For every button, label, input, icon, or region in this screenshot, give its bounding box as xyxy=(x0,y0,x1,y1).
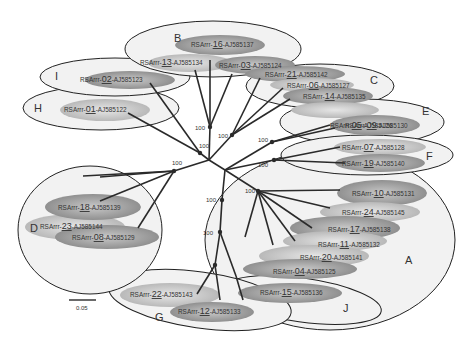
svg-text:A: A xyxy=(405,254,413,266)
phylogenetic-tree-figure: 100 100 100 100 100 100 100 100 100 A B … xyxy=(0,0,464,350)
svg-text:RSArrr-13-AJ585134: RSArrr-13-AJ585134 xyxy=(140,57,203,67)
svg-text:RSArrr-10-AJ585131: RSArrr-10-AJ585131 xyxy=(352,188,415,198)
svg-text:G: G xyxy=(155,311,164,323)
svg-text:RSArrr-04-AJ585125: RSArrr-04-AJ585125 xyxy=(273,266,336,276)
svg-text:RSArrr-03-AJ585124: RSArrr-03-AJ585124 xyxy=(219,60,282,70)
svg-text:RSArrr-17-AJ585138: RSArrr-17-AJ585138 xyxy=(328,224,391,234)
svg-text:H: H xyxy=(34,102,42,114)
svg-text:100: 100 xyxy=(206,197,217,203)
svg-text:RSArrr-09-AJ585130: RSArrr-09-AJ585130 xyxy=(345,120,408,130)
svg-text:F: F xyxy=(426,150,433,162)
svg-text:B: B xyxy=(174,32,181,44)
svg-text:100: 100 xyxy=(172,160,183,166)
svg-text:RSArrr-01-AJ585122: RSArrr-01-AJ585122 xyxy=(64,104,127,114)
svg-text:0.05: 0.05 xyxy=(76,305,88,311)
svg-text:100: 100 xyxy=(203,230,214,236)
svg-text:RSArrr-02-AJ585123: RSArrr-02-AJ585123 xyxy=(80,74,143,84)
svg-text:J: J xyxy=(343,302,349,314)
svg-text:RSArrr-08-AJ585129: RSArrr-08-AJ585129 xyxy=(72,232,135,242)
svg-text:RSArrr-24-AJ585145: RSArrr-24-AJ585145 xyxy=(342,207,405,217)
svg-text:RSArrr-07-AJ585128: RSArrr-07-AJ585128 xyxy=(342,142,405,152)
svg-text:100: 100 xyxy=(258,162,269,168)
svg-text:RSArrr-22-AJ585143: RSArrr-22-AJ585143 xyxy=(130,289,193,299)
svg-text:I: I xyxy=(55,70,58,82)
svg-text:C: C xyxy=(370,74,378,86)
svg-text:RSArrr-16-AJ585137: RSArrr-16-AJ585137 xyxy=(191,39,254,49)
svg-text:RSArrr-06-AJ585127: RSArrr-06-AJ585127 xyxy=(287,80,350,90)
svg-text:D: D xyxy=(30,222,38,234)
svg-text:100: 100 xyxy=(218,133,229,139)
svg-text:100: 100 xyxy=(258,137,269,143)
svg-text:RSArrr-18-AJ585139: RSArrr-18-AJ585139 xyxy=(58,202,121,212)
svg-text:100: 100 xyxy=(245,188,256,194)
svg-text:RSArrr-20-AJ585141: RSArrr-20-AJ585141 xyxy=(300,252,363,262)
svg-text:RSArrr-19-AJ585140: RSArrr-19-AJ585140 xyxy=(342,158,405,168)
svg-text:RSArrr-11-AJ585132: RSArrr-11-AJ585132 xyxy=(318,239,380,249)
svg-text:RSArrr-12-AJ585133: RSArrr-12-AJ585133 xyxy=(178,306,241,316)
scale-bar: 0.05 xyxy=(69,300,96,311)
svg-text:RSArrr-21-AJ585142: RSArrr-21-AJ585142 xyxy=(265,69,328,79)
svg-text:RSArrr-15-AJ585136: RSArrr-15-AJ585136 xyxy=(260,287,323,297)
svg-text:100: 100 xyxy=(199,143,210,149)
svg-text:RSArrr-23-AJ585144: RSArrr-23-AJ585144 xyxy=(40,221,103,231)
svg-text:RSArrr-14-AJ585135: RSArrr-14-AJ585135 xyxy=(303,91,366,101)
svg-text:E: E xyxy=(422,105,429,117)
svg-text:100: 100 xyxy=(195,125,206,131)
